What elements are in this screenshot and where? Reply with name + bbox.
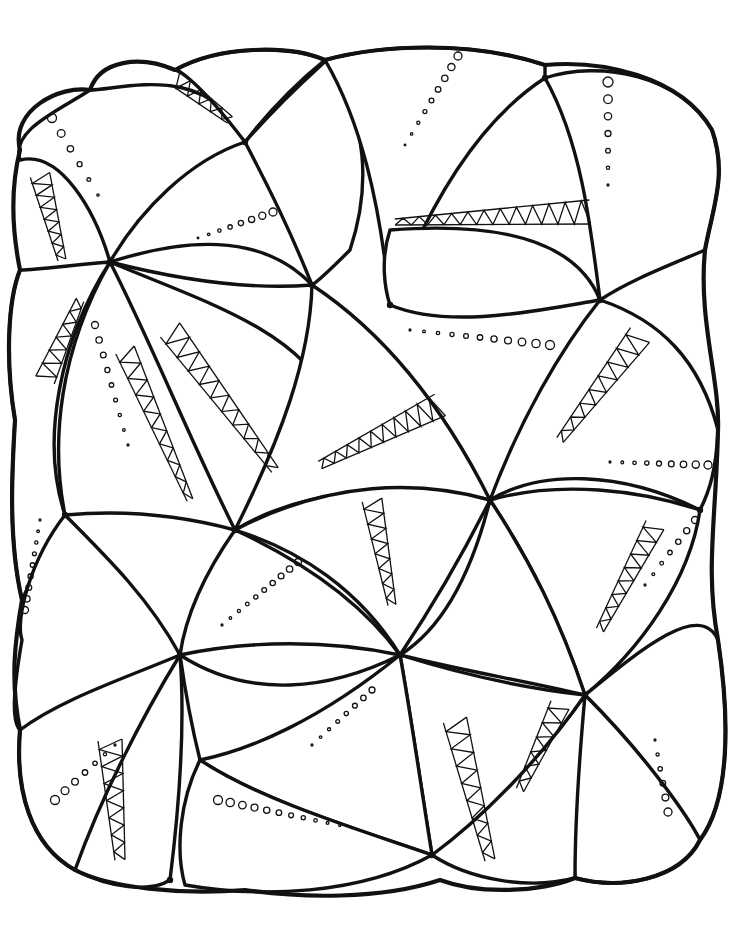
ray-hub [62, 512, 68, 518]
ray-hub [582, 692, 588, 698]
ray-hub [597, 297, 603, 303]
ray-hub [167, 877, 173, 883]
ray-hub [177, 652, 183, 658]
ray-hub [487, 497, 493, 503]
ray-hub [542, 75, 548, 81]
ray-hub [429, 852, 435, 858]
ray-hub [107, 259, 113, 265]
ray-hub [387, 302, 393, 308]
ray-hub [309, 282, 315, 288]
ray-hub [397, 652, 403, 658]
ray-hub [242, 139, 248, 145]
zentangle-artwork [0, 0, 754, 943]
ray-hub [697, 507, 703, 513]
ray-hub [232, 527, 238, 533]
